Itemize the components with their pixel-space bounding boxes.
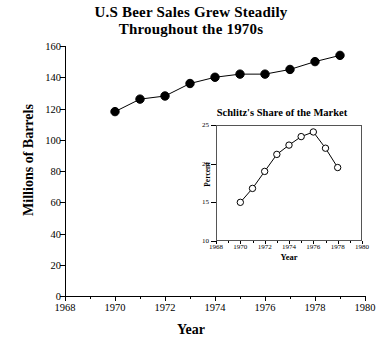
x-tick <box>65 296 66 301</box>
inset-data-point <box>274 151 280 157</box>
x-minor-tick <box>90 296 91 299</box>
y-tick-label: 140 <box>45 72 61 83</box>
x-tick <box>315 296 316 301</box>
x-tick <box>215 296 216 301</box>
data-point <box>286 65 294 73</box>
x-tick-label: 1980 <box>355 302 376 313</box>
x-axis-label: Year <box>0 322 382 338</box>
data-point <box>236 70 244 78</box>
x-tick <box>365 296 366 301</box>
x-tick-label: 1974 <box>205 302 226 313</box>
inset-title: Schlitz's Share of the Market <box>192 107 372 118</box>
data-point <box>311 57 319 65</box>
x-tick <box>115 296 116 301</box>
y-tick-label: 100 <box>45 134 61 145</box>
data-point <box>211 73 219 81</box>
data-point <box>136 95 144 103</box>
inset-data-point <box>310 129 316 135</box>
inset-data-point <box>334 164 340 170</box>
y-tick-label: 160 <box>45 41 61 52</box>
x-tick <box>165 296 166 301</box>
y-tick-label: 40 <box>51 228 62 239</box>
y-axis-label: Millions of Barrels <box>21 85 37 235</box>
inset-chart: Schlitz's Share of the Market Percent Ye… <box>194 122 369 262</box>
data-point <box>186 79 194 87</box>
x-tick-label: 1970 <box>105 302 126 313</box>
chart-title: U.S Beer Sales Grew Steadily Throughout … <box>0 4 382 38</box>
data-point <box>111 107 119 115</box>
x-tick <box>265 296 266 301</box>
inset-data-point <box>298 133 304 139</box>
inset-data-point <box>249 185 255 191</box>
y-tick-label: 120 <box>45 103 61 114</box>
x-minor-tick <box>190 296 191 299</box>
inset-data-point <box>261 168 267 174</box>
chart-figure: U.S Beer Sales Grew Steadily Throughout … <box>0 0 382 354</box>
x-tick-label: 1972 <box>155 302 176 313</box>
y-tick-label: 60 <box>51 197 62 208</box>
x-tick-label: 1978 <box>305 302 326 313</box>
inset-data-point <box>286 142 292 148</box>
x-tick-label: 1976 <box>255 302 276 313</box>
inset-data-point <box>322 145 328 151</box>
y-tick-label: 20 <box>51 259 62 270</box>
x-minor-tick <box>140 296 141 299</box>
data-point <box>336 51 344 59</box>
y-tick-label: 80 <box>51 166 62 177</box>
x-minor-tick <box>290 296 291 299</box>
x-minor-tick <box>240 296 241 299</box>
x-minor-tick <box>340 296 341 299</box>
data-point <box>161 92 169 100</box>
x-tick-label: 1968 <box>55 302 76 313</box>
data-point <box>261 70 269 78</box>
y-tick-label: 0 <box>56 291 61 302</box>
inset-data-point <box>237 199 243 205</box>
chart-title-line-2: Throughout the 1970s <box>0 21 382 38</box>
inset-series <box>194 122 369 262</box>
chart-title-line-1: U.S Beer Sales Grew Steadily <box>0 4 382 21</box>
